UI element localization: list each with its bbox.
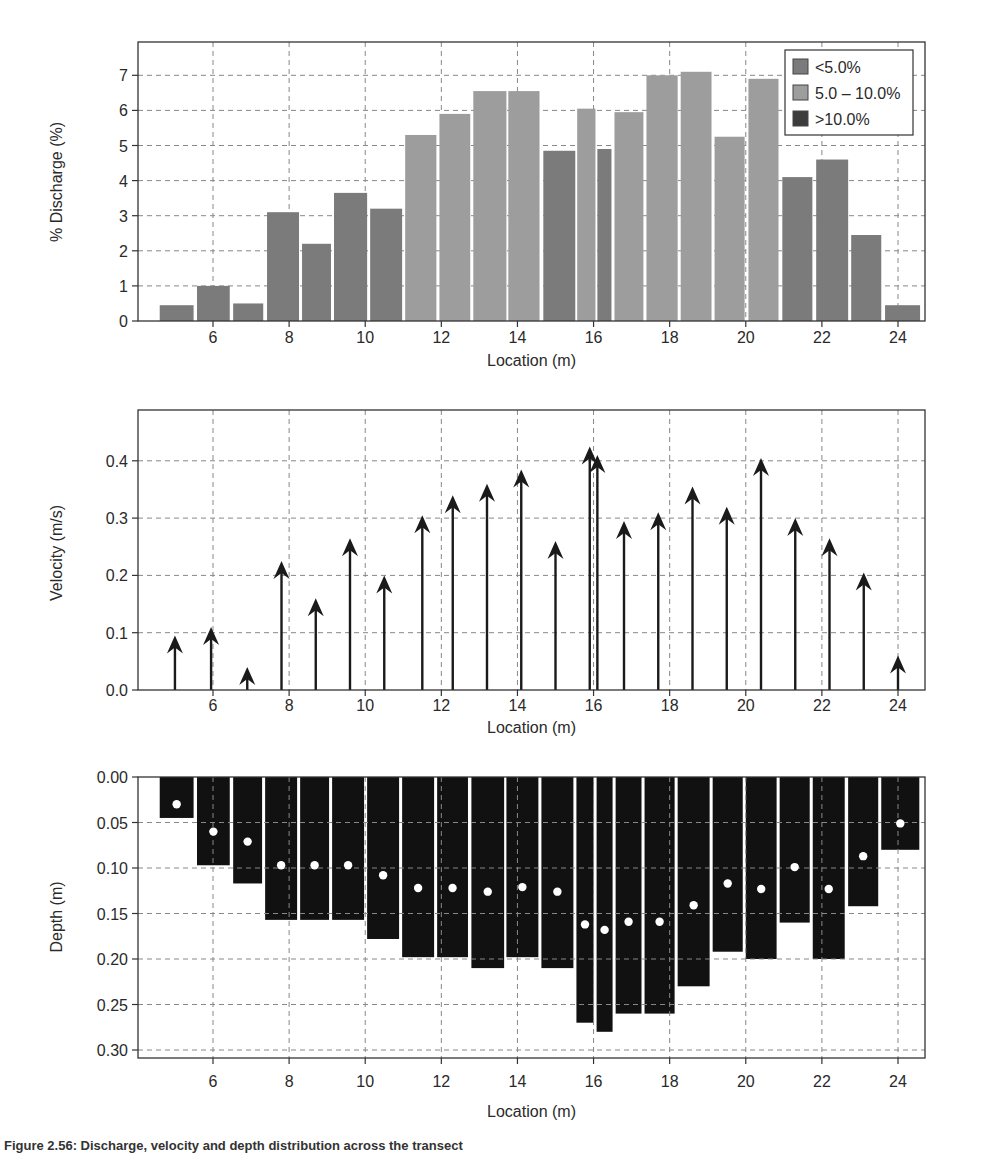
x-tick-label: 16 [585, 329, 603, 346]
x-tick-label: 12 [432, 329, 450, 346]
depth-x-axis-label: Location (m) [487, 1103, 576, 1120]
y-tick-label: 0.25 [97, 997, 128, 1014]
discharge-panel: 68101214161820222401234567 % Discharge (… [48, 42, 925, 369]
depth-point [553, 887, 561, 895]
x-tick-label: 14 [509, 329, 527, 346]
x-tick-label: 8 [285, 1073, 294, 1090]
figure-caption: Figure 2.56: Discharge, velocity and dep… [4, 1138, 463, 1153]
depth-column [506, 777, 538, 957]
y-tick-label: 7 [119, 67, 128, 84]
depth-point [344, 861, 352, 869]
depth-column [881, 777, 919, 850]
x-tick-label: 20 [737, 329, 755, 346]
discharge-bar [816, 160, 848, 321]
figure: 68101214161820222401234567 % Discharge (… [0, 0, 982, 1154]
discharge-bar [597, 149, 611, 321]
depth-point [484, 887, 492, 895]
discharge-bar [851, 235, 881, 321]
x-tick-label: 18 [661, 697, 679, 714]
x-tick-label: 10 [356, 329, 374, 346]
discharge-bar [473, 91, 506, 321]
discharge-bar [334, 193, 367, 321]
x-tick-label: 16 [585, 697, 603, 714]
discharge-bar [782, 177, 812, 321]
y-tick-label: 0.00 [97, 769, 128, 786]
velocity-x-axis-label: Location (m) [487, 719, 576, 736]
depth-columns [160, 777, 920, 1032]
x-tick-label: 8 [285, 697, 294, 714]
depth-column [541, 777, 573, 968]
x-tick-label: 20 [737, 1073, 755, 1090]
depth-point [859, 852, 867, 860]
y-tick-label: 0 [119, 313, 128, 330]
y-tick-label: 2 [119, 243, 128, 260]
depth-column [780, 777, 810, 923]
depth-point [277, 861, 285, 869]
depth-column [160, 777, 194, 818]
depth-column [678, 777, 710, 986]
discharge-bar [748, 79, 778, 321]
x-tick-label: 12 [432, 697, 450, 714]
discharge-bar [302, 244, 331, 321]
velocity-grid [138, 410, 925, 690]
legend-label-gt10: >10.0% [815, 111, 870, 128]
discharge-legend: <5.0% 5.0 – 10.0% >10.0% [785, 50, 913, 135]
x-tick-label: 18 [661, 1073, 679, 1090]
depth-point [689, 901, 697, 909]
depth-column [576, 777, 593, 1023]
y-tick-label: 0.1 [106, 625, 128, 642]
y-tick-label: 3 [119, 208, 128, 225]
y-tick-label: 0.3 [106, 510, 128, 527]
depth-column [265, 777, 297, 920]
y-tick-label: 0.10 [97, 860, 128, 877]
depth-point [655, 917, 663, 925]
x-tick-label: 20 [737, 697, 755, 714]
y-tick-label: 0.0 [106, 682, 128, 699]
discharge-bar [543, 151, 575, 321]
depth-column [597, 777, 613, 1032]
y-tick-label: 0.30 [97, 1042, 128, 1059]
x-tick-label: 16 [585, 1073, 603, 1090]
discharge-bar [197, 286, 230, 321]
legend-swatch-lt5 [793, 59, 808, 74]
velocity-ticks: 6810121416182022240.00.10.20.30.4 [106, 453, 907, 714]
depth-column [471, 777, 504, 968]
x-tick-label: 22 [813, 329, 831, 346]
x-tick-label: 10 [356, 697, 374, 714]
discharge-bar [715, 137, 745, 321]
depth-point [724, 879, 732, 887]
x-tick-label: 22 [813, 697, 831, 714]
discharge-bar [577, 109, 595, 321]
depth-point [825, 885, 833, 893]
velocity-arrows [167, 446, 906, 690]
depth-point [209, 827, 217, 835]
depth-point [310, 861, 318, 869]
depth-point [581, 920, 589, 928]
discharge-bar [370, 209, 402, 321]
y-tick-label: 0.20 [97, 951, 128, 968]
depth-panel: 6810121416182022240.000.050.100.150.200.… [48, 769, 925, 1120]
x-tick-label: 14 [509, 1073, 527, 1090]
x-tick-label: 22 [813, 1073, 831, 1090]
discharge-bar [267, 212, 299, 321]
depth-column [300, 777, 329, 920]
depth-column [848, 777, 878, 906]
legend-swatch-gt10 [793, 111, 808, 126]
x-tick-label: 6 [209, 697, 218, 714]
legend-label-mid: 5.0 – 10.0% [815, 85, 900, 102]
velocity-plot-frame [138, 410, 925, 690]
y-tick-label: 0.05 [97, 815, 128, 832]
legend-label-lt5: <5.0% [815, 59, 861, 76]
discharge-bar [681, 72, 712, 321]
discharge-bar [439, 114, 470, 321]
discharge-bar [405, 135, 436, 321]
y-tick-label: 0.4 [106, 453, 128, 470]
depth-point [243, 837, 251, 845]
depth-column [332, 777, 364, 920]
x-tick-label: 18 [661, 329, 679, 346]
x-tick-label: 14 [509, 697, 527, 714]
y-tick-label: 0.15 [97, 906, 128, 923]
x-tick-label: 12 [432, 1073, 450, 1090]
depth-point [757, 885, 765, 893]
depth-point [172, 800, 180, 808]
